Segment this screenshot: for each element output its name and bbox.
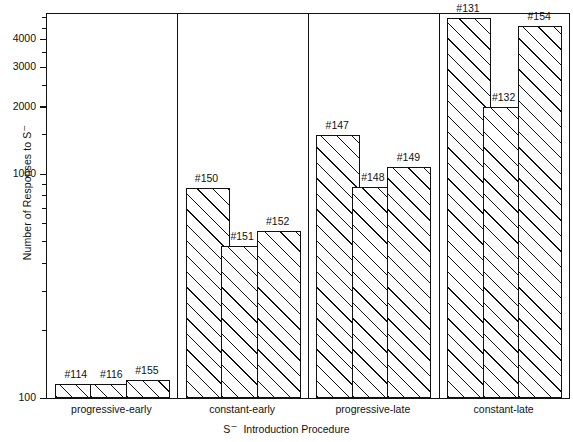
bar-n155 bbox=[126, 380, 170, 398]
y-axis-label-superscript: – bbox=[19, 126, 29, 131]
bar-label-n152: #152 bbox=[248, 215, 308, 227]
group-separator-2 bbox=[308, 14, 309, 398]
y-axis-minor-tick-3500 bbox=[42, 52, 47, 53]
y-axis-minor-tick-700 bbox=[42, 208, 47, 209]
bar-n149 bbox=[387, 167, 431, 398]
y-axis-minor-tick-5000 bbox=[42, 17, 47, 18]
bar-chart-figure: Number of Responses to S– S–Introduction… bbox=[0, 0, 573, 442]
y-axis-ticklabel-2000: 2000 bbox=[4, 100, 36, 112]
bar-n154 bbox=[518, 26, 562, 398]
y-axis-ticklabel-100: 100 bbox=[4, 391, 36, 403]
y-axis-minor-tick-200 bbox=[42, 330, 47, 331]
y-axis-minor-tick-300 bbox=[42, 291, 47, 292]
y-axis-major-tick-100 bbox=[40, 398, 47, 399]
y-axis-minor-tick-900 bbox=[42, 184, 47, 185]
group-label-progressive-early: progressive-early bbox=[46, 403, 177, 415]
y-axis-ticklabel-3000: 3000 bbox=[4, 60, 36, 72]
y-axis-minor-tick-4500 bbox=[42, 28, 47, 29]
y-axis-label: Number of Responses to S– bbox=[19, 93, 33, 293]
y-axis-minor-tick-400 bbox=[42, 263, 47, 264]
y-axis-minor-tick-600 bbox=[42, 223, 47, 224]
bar-label-n149: #149 bbox=[378, 151, 438, 163]
x-axis-label-superscript: – bbox=[231, 421, 236, 431]
x-axis-label-prefix: S bbox=[223, 423, 230, 435]
bar-label-n150: #150 bbox=[177, 172, 237, 184]
plot-area bbox=[46, 14, 570, 399]
y-axis-major-tick-2000 bbox=[40, 106, 47, 107]
y-axis-minor-tick-500 bbox=[42, 241, 47, 242]
bar-label-n132: #132 bbox=[474, 91, 534, 103]
group-label-constant-late: constant-late bbox=[438, 403, 569, 415]
bar-n152 bbox=[257, 231, 301, 398]
y-axis-minor-tick-800 bbox=[42, 195, 47, 196]
bar-label-n148: #148 bbox=[343, 171, 403, 183]
group-separator-3 bbox=[439, 14, 440, 398]
bar-label-n155: #155 bbox=[117, 364, 177, 376]
x-axis-label: S–Introduction Procedure bbox=[0, 421, 573, 435]
group-separator-1 bbox=[177, 14, 178, 398]
bar-label-n131: #131 bbox=[438, 2, 498, 14]
y-axis-label-text: Number of Responses to S bbox=[21, 132, 33, 260]
y-axis-minor-tick-2500 bbox=[42, 85, 47, 86]
bar-label-n154: #154 bbox=[509, 10, 569, 22]
group-label-constant-early: constant-early bbox=[177, 403, 308, 415]
y-axis-major-tick-1000 bbox=[40, 174, 47, 175]
y-axis-major-tick-4000 bbox=[40, 39, 47, 40]
y-axis-ticklabel-4000: 4000 bbox=[4, 32, 36, 44]
y-axis-major-tick-3000 bbox=[40, 67, 47, 68]
group-label-progressive-late: progressive-late bbox=[308, 403, 439, 415]
bar-label-n147: #147 bbox=[307, 119, 367, 131]
bar-label-n151: #151 bbox=[212, 230, 272, 242]
y-axis-minor-tick-1500 bbox=[42, 134, 47, 135]
x-axis-label-suffix: Introduction Procedure bbox=[243, 423, 349, 435]
y-axis-ticklabel-1000: 1000 bbox=[4, 167, 36, 179]
